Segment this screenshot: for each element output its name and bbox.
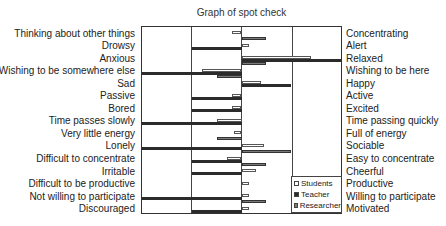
legend: Students Teacher Researcher <box>291 176 342 213</box>
row-label-right: Wishing to be here <box>346 65 429 76</box>
researcher-swatch-icon <box>294 203 298 208</box>
bar-teacher <box>192 109 242 112</box>
bar-teacher <box>142 147 242 150</box>
legend-item-teacher: Teacher <box>294 189 341 200</box>
legend-label: Students <box>301 178 333 189</box>
bar-teacher <box>192 47 242 50</box>
row-label-right: Active <box>346 90 373 101</box>
bar-teacher <box>142 197 242 200</box>
row-label-right: Excited <box>346 103 379 114</box>
bar-researcher <box>242 37 267 40</box>
students-swatch-icon <box>294 181 299 186</box>
bar-researcher <box>217 75 242 78</box>
legend-label: Researcher <box>300 200 341 211</box>
row-label-left: Wishing to be somewhere else <box>0 65 135 76</box>
row-label-right: Full of energy <box>346 128 407 139</box>
bar-students <box>242 144 264 147</box>
bar-teacher <box>192 97 242 100</box>
bar-students <box>234 131 241 134</box>
row-label-left: Drowsy <box>102 40 135 51</box>
bar-students <box>242 182 249 185</box>
row-label-left: Sad <box>117 78 135 89</box>
row-label-right: Productive <box>346 178 393 189</box>
bar-researcher <box>242 163 267 166</box>
gridline-minus-1 <box>191 27 192 213</box>
bar-students <box>242 44 249 47</box>
chart-title: Graph of spot check <box>141 7 342 18</box>
bar-students <box>242 194 249 197</box>
row-label-left: Discouraged <box>79 203 135 214</box>
bar-teacher <box>192 160 242 163</box>
bar-researcher <box>242 150 292 153</box>
row-label-right: Happy <box>346 78 375 89</box>
bar-researcher <box>217 137 242 140</box>
row-label-left: Difficult to concentrate <box>36 153 135 164</box>
bar-researcher <box>242 62 267 65</box>
row-label-right: Sociable <box>346 140 384 151</box>
row-label-left: Irritable <box>102 166 135 177</box>
teacher-swatch-icon <box>294 192 299 197</box>
row-label-left: Anxious <box>99 53 135 64</box>
bar-researcher <box>242 200 267 203</box>
bar-teacher <box>142 122 242 125</box>
row-label-right: Time passing quickly <box>346 115 438 126</box>
legend-label: Teacher <box>301 189 329 200</box>
row-label-left: Time passes slowly <box>49 115 135 126</box>
bar-students <box>242 207 249 210</box>
bar-students <box>242 169 257 172</box>
bar-teacher <box>192 210 242 213</box>
row-label-left: Very little energy <box>61 128 135 139</box>
row-label-left: Passive <box>100 90 135 101</box>
row-label-right: Easy to concentrate <box>346 153 434 164</box>
row-label-right: Alert <box>346 40 367 51</box>
bar-teacher <box>192 172 242 175</box>
row-label-left: Lonely <box>106 140 135 151</box>
row-label-right: Concentrating <box>346 28 408 39</box>
row-label-right: Motivated <box>346 203 389 214</box>
legend-item-students: Students <box>294 178 341 189</box>
row-label-left: Bored <box>108 103 135 114</box>
bar-teacher <box>242 84 292 87</box>
row-label-left: Thinking about other things <box>14 28 135 39</box>
row-label-right: Willing to participate <box>346 191 435 202</box>
row-label-right: Relaxed <box>346 53 383 64</box>
row-label-left: Not willing to participate <box>29 191 135 202</box>
row-label-right: Cheerful <box>346 166 384 177</box>
legend-item-researcher: Researcher <box>294 200 341 211</box>
bar-students <box>232 31 242 34</box>
row-label-left: Difficult to be productive <box>28 178 135 189</box>
